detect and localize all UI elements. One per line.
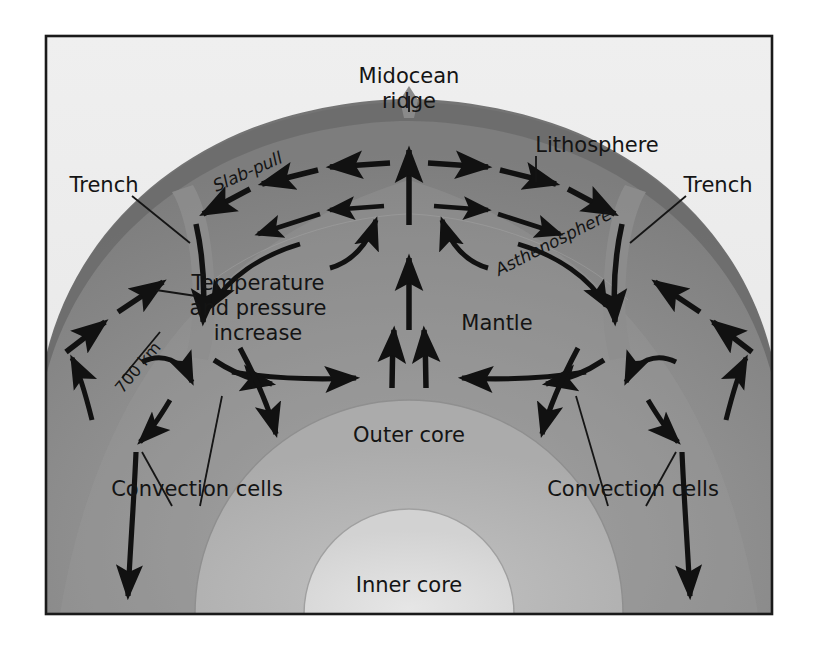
label-convection-cells-right: Convection cells	[547, 477, 719, 501]
label-mantle: Mantle	[461, 311, 532, 335]
label-temperature-line2: and pressure	[190, 296, 327, 320]
arrow-upwelling-4	[424, 330, 426, 388]
label-midocean-ridge-line2: ridge	[382, 89, 436, 113]
label-midocean-ridge-line1: Midocean	[359, 64, 460, 88]
label-lithosphere: Lithosphere	[535, 133, 659, 157]
arrow-upwelling-3	[392, 330, 394, 388]
label-temperature-line3: increase	[214, 321, 303, 345]
label-convection-cells-left: Convection cells	[111, 477, 283, 501]
label-trench-left: Trench	[69, 173, 139, 197]
label-temperature-line1: Temperature	[190, 271, 324, 295]
label-outer-core: Outer core	[353, 423, 465, 447]
label-inner-core: Inner core	[356, 573, 463, 597]
label-trench-right: Trench	[683, 173, 753, 197]
earth-interior-figure: Midocean ridge Lithosphere Asthenosphere…	[0, 0, 814, 645]
diagram-canvas: Midocean ridge Lithosphere Asthenosphere…	[0, 0, 814, 645]
